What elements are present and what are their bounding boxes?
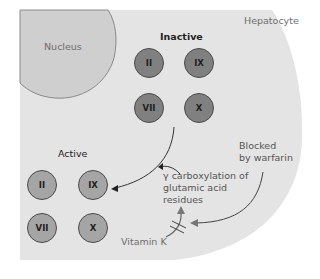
warfarin-line-2: by warfarin [239, 152, 293, 164]
active-title: Active [58, 148, 87, 159]
process-line-2: glutamic acid [163, 182, 248, 194]
process-label: γ carboxylation of glutamic acid residue… [163, 170, 248, 206]
active-factor-vii: VII [27, 213, 57, 243]
active-factor-ii: II [27, 170, 57, 200]
warfarin-label: Blocked by warfarin [239, 140, 293, 164]
inactive-factor-ii: II [134, 48, 164, 78]
active-factor-ix: IX [78, 170, 108, 200]
inactive-factor-vii: VII [134, 93, 164, 123]
nucleus-label: Nucleus [44, 41, 82, 52]
inactive-title: Inactive [160, 31, 203, 42]
inactive-factor-x: X [184, 93, 214, 123]
hepatocyte-label: Hepatocyte [244, 15, 299, 26]
inactive-factor-ix: IX [184, 48, 214, 78]
active-factor-x: X [78, 213, 108, 243]
vitamin-k-label: Vitamin K [121, 236, 167, 247]
process-line-1: γ carboxylation of [163, 170, 248, 182]
process-line-3: residues [163, 194, 248, 206]
warfarin-line-1: Blocked [239, 140, 293, 152]
